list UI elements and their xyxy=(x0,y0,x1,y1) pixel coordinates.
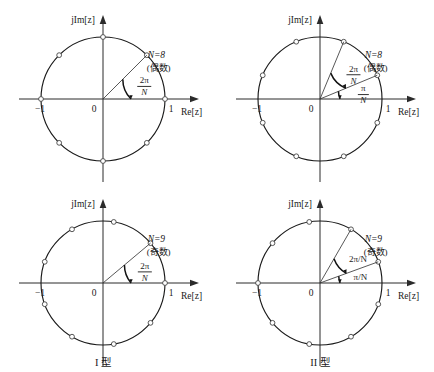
angle-label-offset-denominator: N xyxy=(359,95,367,105)
tick-label-one: 1 xyxy=(386,104,391,114)
tick-label-origin: 0 xyxy=(92,104,97,114)
root-marker xyxy=(39,97,44,102)
imag-axis-arrowhead xyxy=(100,15,107,24)
root-marker xyxy=(148,320,153,325)
parity-label: (奇数) xyxy=(364,246,388,257)
real-axis-label: Re[z] xyxy=(181,107,202,117)
angle-label-main-denominator: N xyxy=(140,87,148,97)
root-marker xyxy=(70,227,75,232)
captions: I 型II 型 xyxy=(95,356,330,368)
root-marker xyxy=(101,35,106,40)
panel-top-left: Re[z]jIm[z]−1012πNN=8(偶数) xyxy=(19,15,202,182)
root-marker xyxy=(294,154,299,159)
n-value-label: N=8 xyxy=(147,50,166,60)
tick-label-minus-one: −1 xyxy=(35,288,45,298)
tick-label-one: 1 xyxy=(169,288,174,298)
figure-canvas: Re[z]jIm[z]−1012πNN=8(偶数)Re[z]jIm[z]−101… xyxy=(0,0,434,372)
panel-bottom-right: Re[z]jIm[z]−1012π/Nπ/NN=9(奇数) xyxy=(236,199,419,366)
tick-label-one: 1 xyxy=(386,288,391,298)
root-marker xyxy=(375,120,380,125)
root-marker xyxy=(42,259,47,264)
imag-axis-label: jIm[z] xyxy=(287,199,312,209)
parity-label: (偶数) xyxy=(364,62,388,73)
angle-label-offset-numerator: π xyxy=(361,83,366,93)
real-axis-label: Re[z] xyxy=(398,291,419,301)
imag-axis-label: jIm[z] xyxy=(287,15,312,25)
imag-axis-label: jIm[z] xyxy=(70,199,95,209)
tick-label-origin: 0 xyxy=(92,288,97,298)
n-value-label: N=8 xyxy=(364,50,383,60)
angle-label-main-numerator: 2π xyxy=(349,64,359,74)
parity-label: (奇数) xyxy=(147,246,171,257)
radius-line-offset xyxy=(320,262,378,283)
radius-line-main xyxy=(320,229,351,283)
root-marker xyxy=(294,39,299,44)
tick-label-one: 1 xyxy=(169,104,174,114)
root-marker xyxy=(307,220,312,225)
root-marker xyxy=(376,302,381,307)
tick-label-origin: 0 xyxy=(309,288,314,298)
angle-label-main-numerator: 2π xyxy=(140,75,150,85)
real-axis-label: Re[z] xyxy=(181,291,202,301)
root-marker xyxy=(111,342,116,347)
real-axis-label: Re[z] xyxy=(398,107,419,117)
root-marker xyxy=(57,140,62,145)
root-marker xyxy=(349,334,354,339)
root-marker xyxy=(42,302,47,307)
root-marker xyxy=(270,320,275,325)
tick-label-minus-one: −1 xyxy=(252,288,262,298)
unit-circle-figure: Re[z]jIm[z]−1012πNN=8(偶数)Re[z]jIm[z]−101… xyxy=(0,0,434,372)
caption-left: I 型 xyxy=(95,356,111,368)
angle-label-main-denominator: N xyxy=(141,273,149,283)
angle-label-main-numerator: 2π xyxy=(140,261,150,271)
tick-label-minus-one: −1 xyxy=(252,104,262,114)
root-marker xyxy=(341,154,346,159)
root-marker xyxy=(144,140,149,145)
root-marker xyxy=(70,334,75,339)
tick-label-origin: 0 xyxy=(309,104,314,114)
root-marker xyxy=(260,120,265,125)
panel-bottom-left: Re[z]jIm[z]−1012πNN=9(奇数) xyxy=(19,199,202,366)
n-value-label: N=9 xyxy=(147,234,166,244)
parity-label: (偶数) xyxy=(147,62,171,73)
root-marker xyxy=(57,53,62,58)
angle-label-offset: π/N xyxy=(354,272,368,282)
root-marker xyxy=(101,159,106,164)
real-axis-arrowhead xyxy=(407,280,416,287)
root-marker xyxy=(307,342,312,347)
root-marker xyxy=(260,73,265,78)
imag-axis-label: jIm[z] xyxy=(70,15,95,25)
root-marker xyxy=(111,220,116,225)
root-marker xyxy=(163,281,168,286)
imag-axis-arrowhead xyxy=(100,199,107,208)
real-axis-arrowhead xyxy=(190,96,199,103)
caption-right: II 型 xyxy=(310,356,330,368)
tick-label-minus-one: −1 xyxy=(35,104,45,114)
real-axis-arrowhead xyxy=(190,280,199,287)
root-marker xyxy=(256,281,261,286)
panel-top-right: Re[z]jIm[z]−1012πNπNN=8(偶数) xyxy=(236,15,419,182)
angle-label-main-denominator: N xyxy=(349,76,357,86)
imag-axis-arrowhead xyxy=(317,199,324,208)
root-marker xyxy=(270,241,275,246)
imag-axis-arrowhead xyxy=(317,15,324,24)
n-value-label: N=9 xyxy=(364,234,383,244)
root-marker xyxy=(163,97,168,102)
real-axis-arrowhead xyxy=(407,96,416,103)
